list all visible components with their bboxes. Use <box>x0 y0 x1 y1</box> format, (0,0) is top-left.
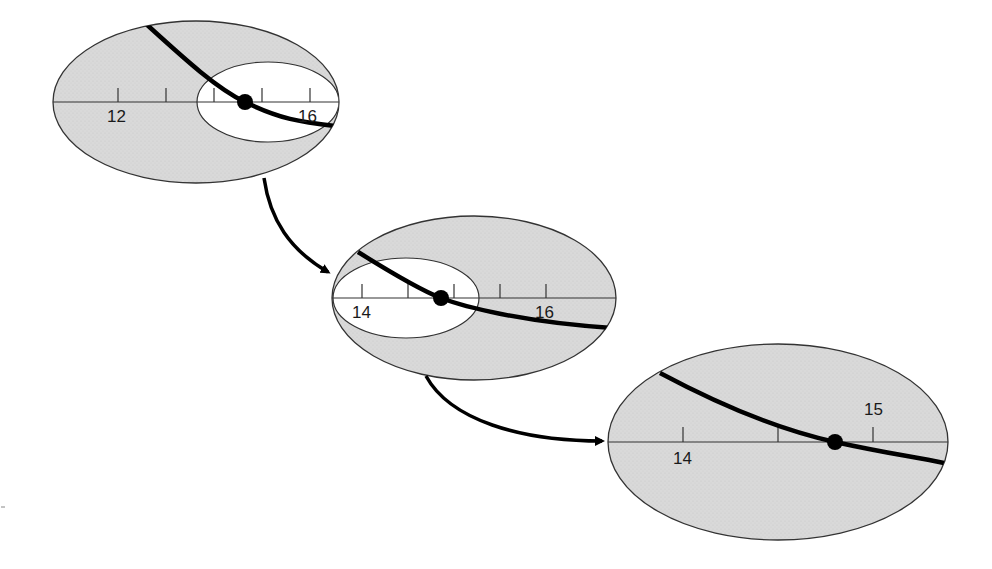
zoom-diagram: 12 16 14 16 <box>0 0 992 569</box>
tick-label-16: 16 <box>535 303 554 322</box>
arrow-1-to-2 <box>264 178 328 272</box>
tick-label-12: 12 <box>107 107 126 126</box>
tick-label-15: 15 <box>864 400 883 419</box>
zoom-panel-2: 14 16 <box>330 216 618 380</box>
tick-label-14: 14 <box>673 449 692 468</box>
point-marker <box>433 290 449 306</box>
tick-label-14: 14 <box>352 303 371 322</box>
arrow-2-to-3 <box>426 376 602 441</box>
point-marker <box>827 434 843 450</box>
tick-label-16: 16 <box>298 107 317 126</box>
zoom-panel-3: 14 15 <box>605 344 950 540</box>
point-marker <box>237 94 253 110</box>
zoom-panel-1: 12 16 <box>50 5 340 183</box>
